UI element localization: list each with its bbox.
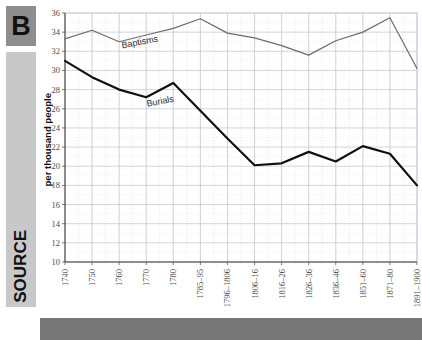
y-axis-tick-label: 30 [52, 65, 61, 75]
y-axis-tick-label: 18 [52, 180, 61, 190]
chart: per thousand people 10121416182022242628… [40, 0, 422, 318]
figure-panel: B SOURCE per thousand people 10121416182… [0, 0, 422, 340]
x-axis-tick-label: 1785–95 [195, 269, 205, 299]
y-axis-tick-label: 22 [52, 142, 61, 152]
x-axis-tick-label: 1770 [141, 269, 151, 286]
y-axis-tick-label: 12 [52, 238, 61, 248]
y-axis-tick-label: 14 [52, 219, 61, 229]
y-axis-tick-label: 16 [52, 200, 61, 210]
y-axis-tick-label: 24 [52, 123, 61, 133]
x-axis-tick-label: 1851–60 [358, 269, 368, 299]
y-axis-tick-label: 32 [52, 46, 61, 56]
x-axis-tick-label: 1760 [114, 269, 124, 286]
panel-badge-letter: B [11, 13, 31, 40]
bottom-bar [40, 318, 422, 340]
y-axis-tick-label: 34 [52, 27, 61, 37]
y-axis-tick-label: 10 [52, 257, 61, 267]
x-axis-tick-label: 1780 [168, 269, 178, 286]
panel-badge: B [6, 6, 36, 46]
x-axis-tick-label: 1871–80 [385, 269, 395, 299]
x-axis-tick-label: 1826–36 [304, 269, 314, 299]
y-axis-tick-label: 26 [52, 104, 61, 114]
y-axis-tick-label: 20 [52, 161, 61, 171]
x-axis-tick-label: 1750 [87, 269, 97, 286]
series-label-baptisms: Baptisms [121, 33, 160, 50]
y-axis-tick-label: 36 [52, 8, 61, 18]
x-axis-tick-label: 1796–1806 [222, 269, 232, 307]
y-axis-tick-label: 28 [52, 85, 61, 95]
source-rail-label-wrap: SOURCE [6, 52, 36, 307]
source-rail-label: SOURCE [11, 230, 31, 303]
x-axis-tick-label: 1836–46 [331, 269, 341, 299]
x-axis-tick-label: 1816–26 [277, 269, 287, 299]
x-axis-tick-label: 1740 [60, 269, 70, 286]
x-axis-tick-label: 1891–1900 [412, 269, 422, 307]
chart-plot: 1012141618202224262830323436174017501760… [40, 0, 422, 318]
x-axis-tick-label: 1806–16 [250, 269, 260, 299]
